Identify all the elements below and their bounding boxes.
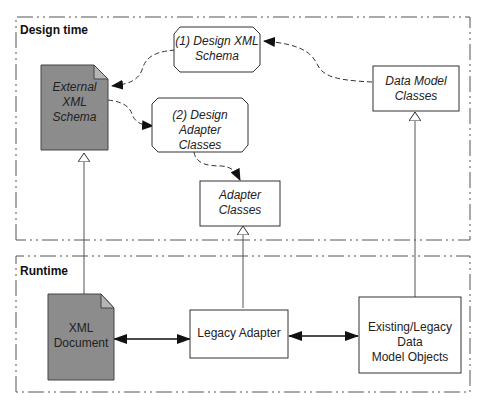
edge-external-to-design-adapter — [108, 100, 153, 126]
adapter-classes-label: Adapter Classes — [200, 188, 280, 218]
xml-document-label: XML Document — [48, 321, 114, 351]
external-schema-label: External XML Schema — [41, 80, 108, 125]
design-time-title: Design time — [20, 23, 88, 37]
design-adapter-line2: Classes — [152, 138, 248, 153]
legacy-objects-line1: Existing/Legacy Data — [359, 320, 461, 350]
edge-design-schema-to-external — [112, 50, 175, 86]
legacy-adapter-label: Legacy Adapter — [190, 326, 288, 341]
design-adapter-line1: (2) Design Adapter — [152, 108, 248, 138]
design-schema-line2: Schema — [174, 49, 260, 64]
design-schema-label: (1) Design XML Schema — [174, 34, 260, 64]
xml-document-line1: XML — [48, 321, 114, 336]
adapter-classes-line1: Adapter — [200, 188, 280, 203]
data-model-line1: Data Model — [373, 74, 459, 89]
data-model-line2: Classes — [373, 89, 459, 104]
edge-design-adapter-to-adapter-classes — [194, 152, 240, 180]
adapter-classes-line2: Classes — [200, 203, 280, 218]
xml-document-line2: Document — [48, 336, 114, 351]
external-schema-line2: Schema — [41, 110, 108, 125]
data-model-classes-label: Data Model Classes — [373, 74, 459, 104]
design-adapter-label: (2) Design Adapter Classes — [152, 108, 248, 153]
legacy-objects-line2: Model Objects — [359, 350, 461, 365]
external-schema-line1: External XML — [41, 80, 108, 110]
design-schema-line1: (1) Design XML — [174, 34, 260, 49]
legacy-objects-label: Existing/Legacy Data Model Objects — [359, 320, 461, 365]
edge-datamodel-to-design-schema — [264, 41, 372, 82]
runtime-title: Runtime — [20, 264, 68, 278]
